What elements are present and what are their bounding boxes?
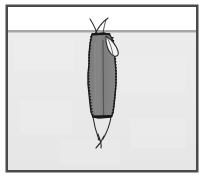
body-top-segment [93,34,110,35]
illustration-figure: Sectional illustration of an elongated s… [0,0,204,179]
upper-field-region [8,7,196,31]
illustration-canvas [0,0,204,179]
tail-junction-node [98,138,100,140]
body-midline [103,40,104,117]
body-highlight [95,42,96,112]
body-base [93,116,112,117]
